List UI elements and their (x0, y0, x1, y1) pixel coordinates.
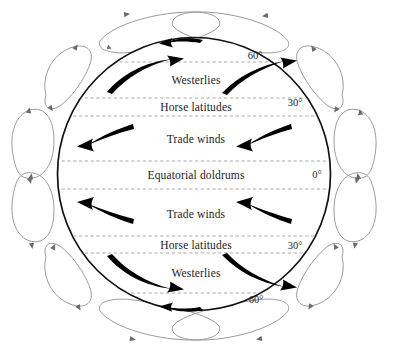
latitude-label-30n: 30° (288, 97, 303, 108)
zone-label-horse-latitudes-north: Horse latitudes (160, 101, 232, 113)
latitude-label-30s: 30° (288, 240, 303, 251)
zone-label-westerlies-north: Westerlies (171, 74, 220, 86)
zone-label-trade-winds-north: Trade winds (167, 133, 225, 145)
hadley-cell-south-right (334, 173, 376, 242)
hadley-cell-north-left (12, 109, 54, 178)
latitude-label-60s: 60° (249, 294, 264, 305)
global-circulation-diagram: Westerlies Horse latitudes Trade winds E… (0, 0, 394, 352)
hadley-cell-south-left (12, 173, 54, 242)
zone-label-equatorial-doldrums: Equatorial doldrums (147, 169, 244, 181)
latitude-label-60n: 60° (248, 50, 263, 61)
zone-label-trade-winds-south: Trade winds (167, 208, 225, 220)
hadley-cell-north-right (334, 109, 376, 178)
latitude-label-0: 0° (312, 169, 321, 180)
zone-label-westerlies-south: Westerlies (171, 267, 220, 279)
zone-label-horse-latitudes-south: Horse latitudes (160, 239, 232, 251)
